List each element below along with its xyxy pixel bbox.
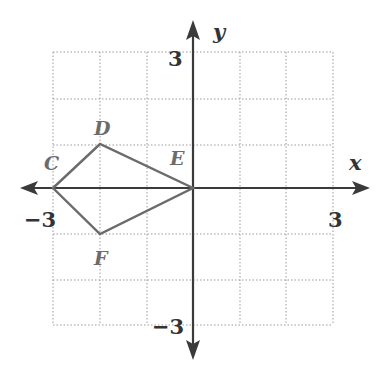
- tick-label-x-max: 3: [328, 207, 343, 232]
- y-axis-label: y: [212, 19, 227, 44]
- vertex-label-c: C: [44, 152, 59, 174]
- x-axis-label: x: [348, 150, 362, 175]
- vertex-label-e: E: [169, 147, 185, 169]
- coordinate-plane: y x 3 −3 −3 3 C D E F: [0, 0, 388, 370]
- vertex-label-d: D: [93, 117, 111, 139]
- tick-label-x-min: −3: [24, 207, 56, 232]
- tick-label-y-min: −3: [152, 314, 184, 339]
- tick-label-y-max: 3: [168, 46, 183, 71]
- vertex-label-f: F: [93, 247, 109, 269]
